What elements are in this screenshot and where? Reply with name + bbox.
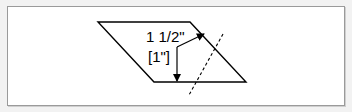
parallelogram-cut-diagram: 1 1/2" [1"] — [0, 0, 352, 112]
dimension-label-primary: 1 1/2" — [146, 28, 185, 45]
dimension-label-secondary: [1"] — [148, 48, 170, 65]
dashed-cut-line — [189, 34, 223, 95]
